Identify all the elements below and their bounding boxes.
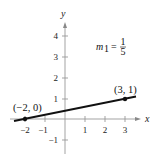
- x-axis-label: x: [144, 113, 150, 124]
- x-tick-label: 3: [123, 125, 128, 135]
- y-tick-label: 1: [54, 94, 59, 104]
- slope-annotation: m 1 = 1 5: [96, 36, 126, 57]
- x-axis-arrow-icon: [135, 117, 141, 121]
- y-axis-label: y: [60, 8, 66, 19]
- chart: x y −2 −1 1 2 3 4 3 2 1 −1 (−2, 0) (3, 1…: [0, 0, 158, 159]
- x-tick-label: −1: [38, 125, 48, 135]
- y-tick-label: −1: [48, 135, 58, 145]
- y-tick-label: 2: [54, 73, 59, 83]
- data-point: [23, 117, 27, 121]
- y-axis: y: [60, 8, 67, 154]
- y-axis-arrow-icon: [63, 22, 67, 28]
- point-label: (3, 1): [114, 84, 137, 96]
- y-tick-label: 4: [54, 31, 59, 41]
- slope-var: m: [96, 41, 103, 52]
- slope-subscript: 1: [104, 43, 109, 54]
- point-label: (−2, 0): [13, 102, 42, 114]
- x-tick-label: 2: [103, 125, 108, 135]
- y-tick-label: 3: [54, 52, 59, 62]
- fraction-denominator: 5: [121, 46, 126, 57]
- equals-sign: =: [111, 41, 117, 52]
- x-tick-label: −2: [20, 125, 30, 135]
- x-tick-label: 1: [83, 125, 88, 135]
- data-point: [123, 97, 127, 101]
